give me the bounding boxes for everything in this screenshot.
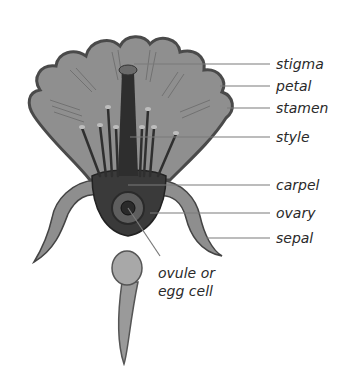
label-carpel: carpel (276, 177, 319, 193)
sepal-right (158, 180, 222, 256)
label-petal: petal (276, 78, 311, 94)
label-sepal: sepal (276, 230, 313, 246)
stigma (119, 65, 137, 75)
label-ovule-line1: ovule or (158, 265, 215, 281)
stem (119, 282, 139, 364)
label-stamen: stamen (276, 100, 329, 116)
flower-diagram: stigma petal stamen style carpel ovary s… (0, 0, 342, 376)
label-ovary: ovary (276, 205, 315, 221)
label-ovule-line2: egg cell (158, 283, 213, 299)
receptacle (112, 251, 142, 285)
label-style: style (276, 129, 310, 145)
label-stigma: stigma (276, 56, 324, 72)
sepal-left (34, 180, 100, 262)
